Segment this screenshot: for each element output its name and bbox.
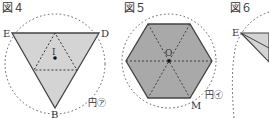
label-d: D <box>101 28 109 39</box>
geometry-figures: 図４ E D B I 円㋐ 図５ O M 円㋑ 図６ E <box>0 0 269 118</box>
label-o: O <box>165 48 172 58</box>
figure-4-title: 図４ <box>2 2 24 15</box>
figure-4: 図４ E D B I 円㋐ <box>2 2 109 118</box>
figure-6-title: 図６ <box>230 2 252 15</box>
label-m: M <box>191 100 201 111</box>
label-e6: E <box>232 27 239 38</box>
figure-5-title: 図５ <box>124 2 146 15</box>
label-circle-i: 円㋑ <box>205 90 223 100</box>
label-e4: E <box>3 28 10 39</box>
label-circle-a: 円㋐ <box>88 98 106 108</box>
point-o <box>167 59 171 63</box>
triangle-6 <box>241 33 269 62</box>
figure-6: 図６ E <box>230 2 269 118</box>
label-i: I <box>52 47 56 57</box>
label-b: B <box>51 109 58 118</box>
figure-5: 図５ O M 円㋑ <box>122 2 223 111</box>
